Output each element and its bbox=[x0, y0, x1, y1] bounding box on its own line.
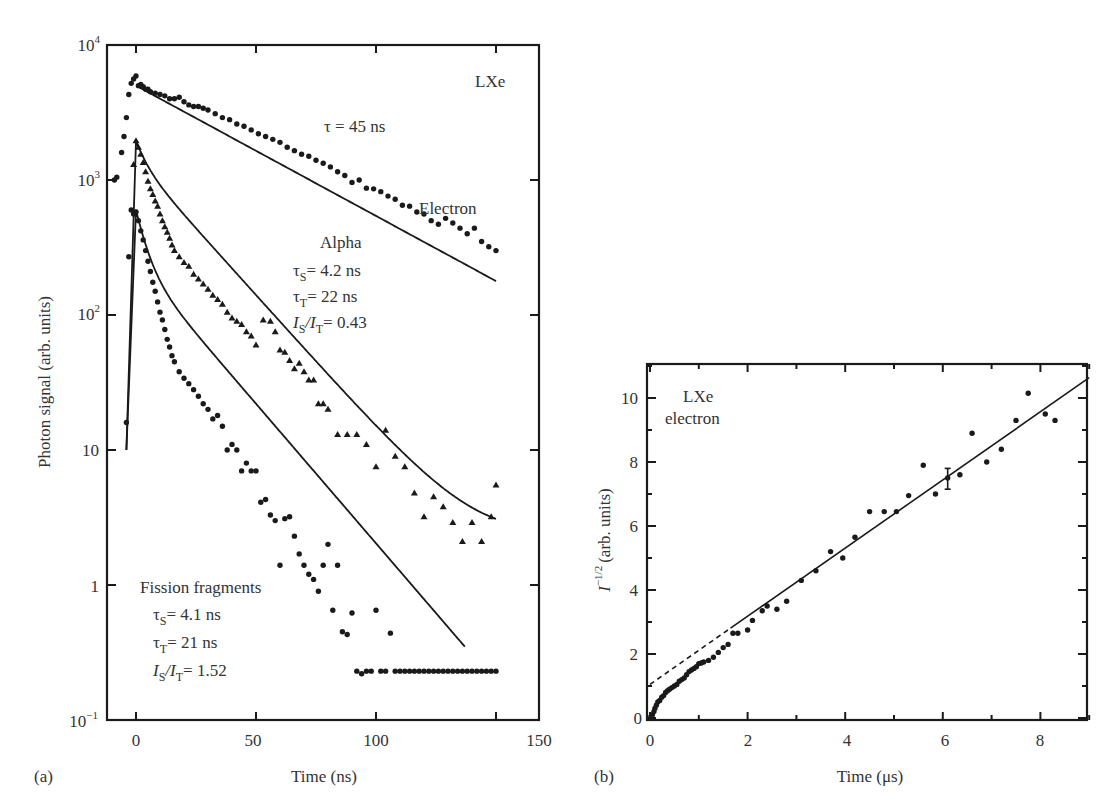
b-data-point bbox=[735, 631, 740, 636]
fission-data-point bbox=[402, 668, 407, 673]
fission-data-point bbox=[412, 668, 417, 673]
fission-data-point bbox=[340, 629, 345, 634]
panel-a-decay-plot: 104 103 102 10 1 10−1 0 50 100 150 Time … bbox=[34, 33, 552, 786]
alpha-data-point bbox=[152, 197, 159, 203]
b-data-point bbox=[701, 659, 706, 664]
alpha-data-point bbox=[149, 191, 156, 197]
alpha-ratio: IS/IT= 0.43 bbox=[292, 313, 367, 336]
fission-data-point bbox=[273, 518, 278, 523]
electron-data-point bbox=[201, 106, 206, 111]
fission-data-point bbox=[316, 588, 321, 593]
a-panel-label: (a) bbox=[34, 767, 53, 786]
b-x-axis-label: Time (μs) bbox=[837, 767, 904, 786]
fission-data-point bbox=[162, 327, 167, 332]
alpha-data-point bbox=[296, 360, 303, 366]
electron-data-point bbox=[157, 92, 162, 97]
alpha-data-point bbox=[169, 242, 176, 248]
electron-data-point bbox=[133, 73, 138, 78]
b-xtick-6: 6 bbox=[941, 731, 950, 750]
fission-data-point bbox=[292, 533, 297, 538]
fission-data-point bbox=[244, 460, 249, 465]
alpha-data-point bbox=[493, 482, 500, 488]
fission-data-point bbox=[220, 424, 225, 429]
electron-data-point bbox=[457, 225, 462, 230]
alpha-data-point bbox=[353, 431, 360, 437]
fission-data-point bbox=[138, 228, 143, 233]
fission-data-point bbox=[431, 668, 436, 673]
b-xtick-8: 8 bbox=[1036, 731, 1045, 750]
b-data-point bbox=[999, 447, 1004, 452]
alpha-data-point bbox=[334, 431, 341, 437]
b-fit-line-solid bbox=[731, 378, 1090, 628]
fission-data-point bbox=[234, 447, 239, 452]
alpha-data-point bbox=[286, 357, 293, 363]
electron-data-point bbox=[191, 104, 196, 109]
b-xtick-2: 2 bbox=[744, 731, 753, 750]
b-data-point bbox=[852, 535, 857, 540]
b-ytick-6: 6 bbox=[630, 517, 639, 536]
fission-data-point bbox=[426, 668, 431, 673]
fission-data-point bbox=[181, 376, 186, 381]
alpha-data-point bbox=[363, 441, 370, 447]
fission-data-point bbox=[484, 668, 489, 673]
fission-data-point bbox=[124, 420, 129, 425]
b-ytick-0: 0 bbox=[634, 709, 643, 728]
electron-data-point bbox=[153, 90, 158, 95]
electron-data-point bbox=[321, 161, 326, 166]
electron-data-point bbox=[292, 148, 297, 153]
b-data-point bbox=[828, 549, 833, 554]
electron-fit-curve bbox=[138, 87, 496, 281]
fission-data-point bbox=[277, 563, 282, 568]
fission-data-point bbox=[479, 668, 484, 673]
panel-a-fit-curves bbox=[126, 87, 496, 647]
fission-data-point bbox=[143, 248, 148, 253]
a-ytick-1e-1: 10−1 bbox=[69, 709, 98, 731]
fission-data-point bbox=[450, 668, 455, 673]
alpha-data-point bbox=[411, 490, 418, 496]
fission-data-point bbox=[393, 668, 398, 673]
alpha-data-point bbox=[421, 513, 428, 519]
b-data-point bbox=[921, 463, 926, 468]
fission-data-point bbox=[205, 407, 210, 412]
electron-data-point bbox=[364, 185, 369, 190]
fission-data-point bbox=[215, 413, 220, 418]
electron-data-point bbox=[472, 225, 477, 230]
b-data-point bbox=[867, 509, 872, 514]
electron-data-point bbox=[256, 131, 261, 136]
fission-data-point bbox=[301, 563, 306, 568]
alpha-tau-s: τS= 4.2 ns bbox=[293, 261, 361, 284]
electron-data-point bbox=[196, 104, 201, 109]
b-data-point bbox=[721, 645, 726, 650]
b-ytick-8: 8 bbox=[630, 453, 639, 472]
a-xtick-50: 50 bbox=[245, 731, 262, 750]
a-ytick-1: 1 bbox=[91, 577, 100, 596]
fission-data-point bbox=[441, 668, 446, 673]
fission-tau-s: τS= 4.1 ns bbox=[153, 605, 221, 628]
fission-data-point bbox=[465, 668, 470, 673]
alpha-data-point bbox=[469, 519, 476, 525]
fission-data-point bbox=[155, 299, 160, 304]
fission-data-point bbox=[126, 254, 131, 259]
alpha-label: Alpha bbox=[320, 233, 362, 252]
fission-data-point bbox=[150, 279, 155, 284]
alpha-data-point bbox=[277, 347, 284, 353]
alpha-data-point bbox=[401, 463, 408, 469]
b-data-point bbox=[1013, 418, 1018, 423]
fission-data-point bbox=[436, 668, 441, 673]
electron-data-point bbox=[124, 115, 129, 120]
electron-data-point bbox=[328, 164, 333, 169]
fission-data-point bbox=[383, 668, 388, 673]
alpha-data-point bbox=[166, 235, 173, 241]
fission-data-point bbox=[253, 468, 258, 473]
electron-data-point bbox=[429, 218, 434, 223]
electron-data-point bbox=[306, 154, 311, 159]
b-data-point bbox=[906, 493, 911, 498]
b-fit-extrapolation-dashed bbox=[650, 628, 731, 684]
electron-data-point bbox=[249, 127, 254, 132]
a-ytick-1e4: 104 bbox=[78, 33, 101, 55]
alpha-data-point bbox=[243, 328, 250, 334]
alpha-data-point bbox=[325, 406, 332, 412]
alpha-data-point bbox=[157, 210, 164, 216]
fission-data-point bbox=[321, 563, 326, 568]
fission-data-point bbox=[455, 668, 460, 673]
